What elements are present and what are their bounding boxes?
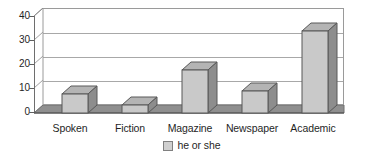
y-tick-label-20: 20 bbox=[6, 59, 30, 69]
bar-magazine bbox=[182, 8, 228, 120]
legend-swatch-he-or-she bbox=[163, 141, 173, 151]
y-tick-mark-0 bbox=[29, 112, 34, 113]
bar-newspaper bbox=[242, 8, 288, 120]
bar-chart: 40 30 20 10 0 Spoken Fiction Magazine Ne… bbox=[0, 0, 383, 162]
y-tick-mark-30 bbox=[29, 40, 34, 41]
x-label-academic: Academic bbox=[282, 122, 344, 134]
plot-side-wall bbox=[34, 8, 43, 120]
y-tick-mark-20 bbox=[29, 64, 34, 65]
y-tick-label-0: 0 bbox=[6, 107, 30, 117]
x-label-spoken: Spoken bbox=[40, 122, 100, 134]
y-tick-label-10: 10 bbox=[6, 83, 30, 93]
bar-academic bbox=[302, 8, 348, 120]
plot-area bbox=[34, 8, 344, 120]
y-tick-mark-10 bbox=[29, 88, 34, 89]
y-axis-line bbox=[34, 16, 35, 113]
bar-spoken bbox=[62, 8, 108, 120]
legend: he or she bbox=[0, 140, 383, 151]
y-tick-mark-40 bbox=[29, 16, 34, 17]
legend-label-he-or-she: he or she bbox=[178, 140, 221, 151]
x-label-newspaper: Newspaper bbox=[220, 122, 284, 134]
x-label-fiction: Fiction bbox=[100, 122, 160, 134]
y-tick-label-30: 30 bbox=[6, 35, 30, 45]
x-axis-labels: Spoken Fiction Magazine Newspaper Academ… bbox=[34, 122, 344, 136]
x-label-magazine: Magazine bbox=[160, 122, 220, 134]
y-tick-label-40: 40 bbox=[6, 11, 30, 21]
bar-fiction bbox=[122, 8, 168, 120]
